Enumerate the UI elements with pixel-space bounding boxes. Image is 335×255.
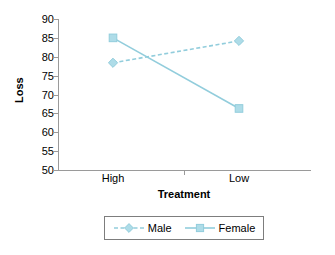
x-tick-label: Low [229,172,249,184]
diamond-marker-icon [113,222,145,234]
legend-entry-male[interactable]: Male [113,222,172,234]
legend-label: Female [219,222,256,234]
chart-legend: MaleFemale [104,216,264,240]
line-chart: Loss 908580757065605550 HighLow Treatmen… [0,0,335,255]
square-marker-icon [184,222,216,234]
series-line [113,38,239,109]
data-point-marker [234,36,243,45]
data-point-marker [235,105,243,113]
legend-label: Male [148,222,172,234]
x-axis-title: Treatment [58,188,310,200]
data-point-marker [108,58,117,67]
legend-entry-female[interactable]: Female [184,222,256,234]
series-female [109,34,243,112]
x-tick-label: High [102,172,125,184]
series-male [108,36,243,67]
series-line [113,41,239,63]
data-point-marker [109,34,117,42]
